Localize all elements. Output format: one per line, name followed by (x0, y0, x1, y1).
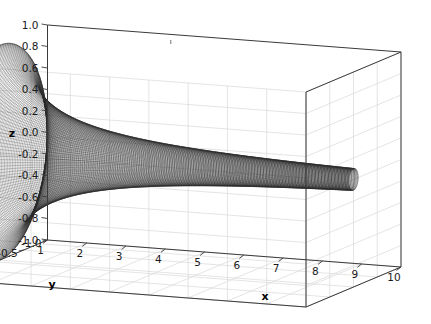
z-axis-title: z (9, 127, 15, 140)
tick-label: -0.6 (18, 191, 39, 203)
y-axis-title: y (48, 278, 55, 291)
tick-label: 0.0 (22, 126, 39, 138)
tick-label: 9 (351, 268, 358, 280)
tick-label: 6 (234, 259, 241, 271)
tick-label: 5 (194, 256, 201, 268)
x-axis-title: x (261, 290, 268, 303)
figure-canvas: 12345678910 1.00.50.0-0.5-1.0 1.00.80.60… (0, 0, 431, 324)
tick-label: 0.2 (22, 105, 39, 117)
stray-mark (170, 40, 171, 44)
tick-label: -0.4 (18, 169, 39, 181)
plot-3d-surface: 12345678910 1.00.50.0-0.5-1.0 1.00.80.60… (0, 0, 431, 324)
tick-label: 4 (155, 253, 162, 265)
tick-label: 2 (76, 247, 83, 259)
tick-label: -0.2 (18, 148, 39, 160)
z-axis-tick-labels: 1.00.80.60.40.20.0-0.2-0.4-0.6-0.8-1.0 (18, 19, 39, 246)
tick-label: 7 (273, 262, 280, 274)
tick-label: 3 (116, 250, 123, 262)
tick-label: -0.5 (0, 247, 18, 259)
tick-label: 10 (387, 271, 400, 283)
tick-label: 0.6 (22, 62, 39, 74)
tick-label: 0.8 (22, 40, 39, 52)
tick-label: -0.8 (18, 212, 39, 224)
tick-label: 1.0 (22, 19, 39, 31)
tick-label: 8 (312, 265, 319, 277)
tick-label: 0.4 (22, 83, 39, 95)
tick-label: -1.0 (18, 234, 39, 246)
